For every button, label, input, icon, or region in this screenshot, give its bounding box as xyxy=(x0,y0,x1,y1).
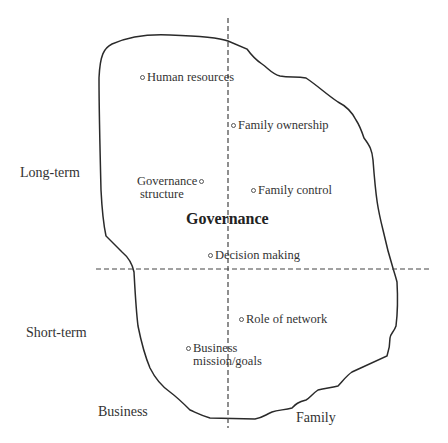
item-decision-making: Decision making xyxy=(206,249,300,262)
circle-marker-icon xyxy=(208,253,213,258)
center-label-governance: Governance xyxy=(186,210,269,228)
circle-marker-icon xyxy=(140,75,145,80)
item-family-control: Family control xyxy=(249,184,332,197)
item-family-ownership: Family ownership xyxy=(229,119,329,132)
circle-marker-icon xyxy=(251,188,256,193)
circle-marker-icon xyxy=(231,123,236,128)
axis-label-long-term: Long-term xyxy=(20,165,80,181)
item-governance-structure: Governance structure xyxy=(137,175,206,201)
item-business-mission-goals: Business mission/goals xyxy=(184,342,262,368)
circle-marker-icon xyxy=(186,346,191,351)
axis-label-short-term: Short-term xyxy=(26,325,87,341)
circle-marker-icon xyxy=(239,317,244,322)
axis-label-family: Family xyxy=(296,410,336,426)
circle-marker-icon xyxy=(199,179,204,184)
item-human-resources: Human resources xyxy=(138,71,234,84)
axis-label-business: Business xyxy=(98,404,148,420)
item-role-of-network: Role of network xyxy=(237,313,327,326)
